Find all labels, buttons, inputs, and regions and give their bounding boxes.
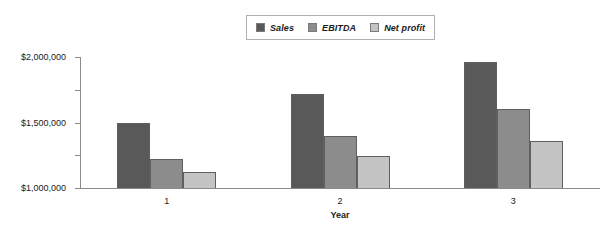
legend-label-sales: Sales xyxy=(270,23,294,33)
legend-item-ebitda: EBITDA xyxy=(308,23,356,33)
legend-swatch-net-profit xyxy=(370,23,379,32)
y-axis-tick-label: $1,000,000 xyxy=(21,183,66,193)
y-axis-tick: $2,000,000 xyxy=(75,57,80,58)
bar-net-profit xyxy=(357,156,390,188)
bar-group xyxy=(117,57,216,188)
legend-swatch-sales xyxy=(256,23,265,32)
bar-net-profit xyxy=(530,141,563,188)
legend-label-net-profit: Net profit xyxy=(384,23,425,33)
x-axis-tick-label: 1 xyxy=(164,196,169,206)
bar-net-profit xyxy=(183,172,216,188)
y-axis-tick: $1,500,000 xyxy=(75,90,80,91)
y-axis-tick: $0 xyxy=(75,188,80,189)
x-axis-line xyxy=(80,188,600,189)
bar-sales xyxy=(117,123,150,189)
plot-area: $0$500,000$1,000,000$1,500,000$2,000,000… xyxy=(80,57,600,188)
chart-legend: Sales EBITDA Net profit xyxy=(246,15,435,40)
legend-swatch-ebitda xyxy=(308,23,317,32)
y-axis-tick: $500,000 xyxy=(75,155,80,156)
bar-ebitda xyxy=(150,159,183,188)
legend-item-net-profit: Net profit xyxy=(370,23,425,33)
y-axis-tick-label: $2,000,000 xyxy=(21,52,66,62)
bar-group xyxy=(464,57,563,188)
x-axis-tick-label: 3 xyxy=(511,196,516,206)
x-axis-title: Year xyxy=(80,210,600,220)
bar-chart: Sales EBITDA Net profit $0$500,000$1,000… xyxy=(0,0,615,232)
bar-group xyxy=(291,57,390,188)
bar-ebitda xyxy=(497,109,530,188)
legend-item-sales: Sales xyxy=(256,23,294,33)
bar-sales xyxy=(464,62,497,188)
bar-ebitda xyxy=(324,136,357,188)
y-axis-tick: $1,000,000 xyxy=(75,123,80,124)
bar-sales xyxy=(291,94,324,188)
y-axis-tick-label: $1,500,000 xyxy=(21,118,66,128)
x-axis-tick-label: 2 xyxy=(337,196,342,206)
y-axis-line xyxy=(80,57,81,188)
legend-label-ebitda: EBITDA xyxy=(322,23,356,33)
